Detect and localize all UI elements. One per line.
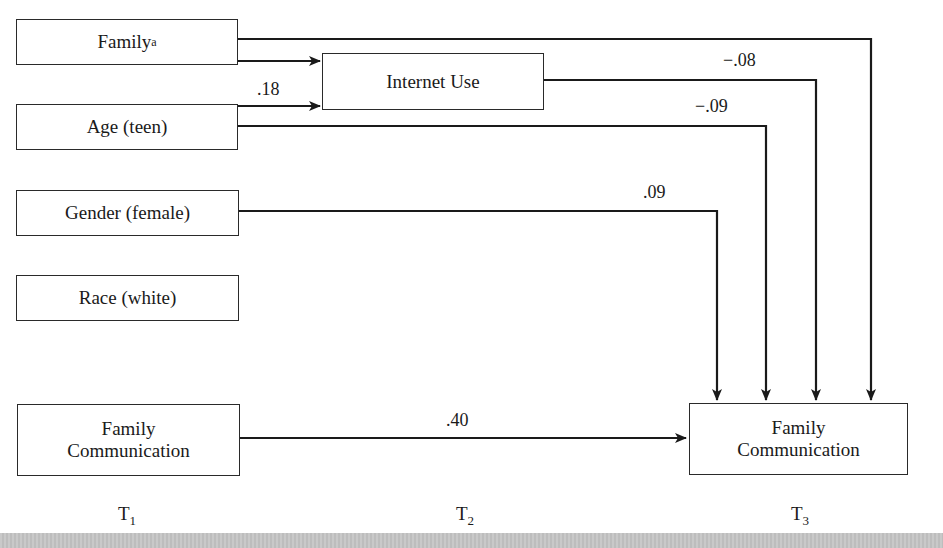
- time-point-t3: T3: [791, 503, 809, 529]
- arrow-gender-to-comm-t3: [238, 211, 717, 400]
- node-age: Age (teen): [16, 104, 238, 150]
- bottom-scan-strip: [0, 533, 943, 548]
- node-age-label: Age (teen): [87, 116, 168, 138]
- node-family-communication-t1: Family Communication: [17, 404, 240, 476]
- node-internet-use-label: Internet Use: [386, 71, 479, 93]
- coef-internet-to-comm: −.08: [723, 50, 756, 70]
- coef-gender-to-comm: .09: [643, 182, 666, 202]
- node-family-communication-t1-line2: Communication: [67, 440, 189, 462]
- coef-age-to-comm: −.09: [695, 96, 728, 116]
- time-point-t2: T2: [456, 503, 474, 529]
- node-family: Familya: [16, 19, 238, 65]
- node-family-communication-t3: Family Communication: [689, 403, 908, 475]
- coef-comm-t1-to-comm-t3: .40: [446, 410, 469, 430]
- node-gender: Gender (female): [16, 190, 239, 236]
- node-race: Race (white): [16, 275, 239, 321]
- node-family-communication-t1-line1: Family: [102, 418, 156, 440]
- time-point-t1: T1: [118, 503, 136, 529]
- node-gender-label: Gender (female): [65, 202, 190, 224]
- arrow-age-to-comm-t3: [237, 126, 766, 400]
- node-family-superscript: a: [151, 31, 156, 53]
- node-family-communication-t3-line2: Communication: [737, 439, 859, 461]
- node-family-label: Family: [97, 31, 151, 53]
- arrow-internet-to-comm-t3: [544, 80, 816, 400]
- node-internet-use: Internet Use: [322, 53, 544, 110]
- node-race-label: Race (white): [79, 287, 177, 309]
- node-family-communication-t3-line1: Family: [772, 417, 826, 439]
- coef-age-to-internet: .18: [257, 79, 280, 99]
